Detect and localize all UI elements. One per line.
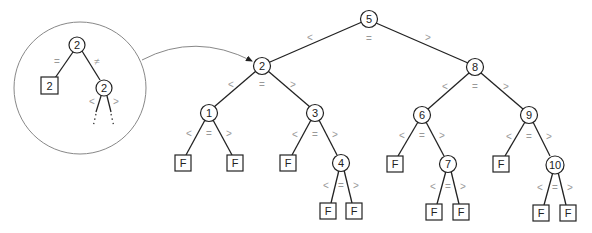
svg-text:3: 3	[312, 107, 318, 119]
inset-eq-label: =	[54, 56, 60, 67]
svg-text:>: >	[226, 128, 232, 139]
leaf-3-lt: F	[280, 155, 296, 171]
svg-text:<: <	[506, 131, 512, 142]
svg-text:>: >	[332, 129, 338, 140]
svg-text:<: <	[307, 32, 313, 43]
inset-gt-label: >	[113, 96, 119, 107]
svg-text:F: F	[538, 207, 545, 219]
inset-zoom: = ≠ < > 2 2 2	[14, 22, 146, 154]
svg-text:>: >	[425, 32, 431, 43]
svg-text:<: <	[537, 182, 543, 193]
svg-text:8: 8	[472, 61, 478, 73]
svg-text:<: <	[399, 130, 405, 141]
inset-dotted-gt	[111, 114, 114, 127]
inset-edge-gt	[107, 96, 111, 112]
svg-text:=: =	[526, 131, 532, 142]
svg-text:=: =	[445, 181, 451, 192]
svg-text:F: F	[351, 205, 358, 217]
node-7: 7	[440, 156, 457, 173]
zoom-arrow	[142, 46, 252, 61]
node-3: 3	[307, 105, 324, 122]
svg-text:F: F	[232, 157, 239, 169]
tree-edges	[186, 22, 566, 205]
svg-text:<: <	[430, 181, 436, 192]
inset-root-node: 2	[69, 37, 85, 53]
svg-text:>: >	[353, 180, 359, 191]
svg-text:<: <	[323, 180, 329, 191]
leaf-6-lt: F	[387, 156, 403, 172]
leaf-1-lt: F	[175, 155, 191, 171]
svg-text:=: =	[259, 79, 265, 90]
node-4: 4	[333, 155, 350, 172]
node-6: 6	[414, 107, 431, 124]
svg-text:>: >	[567, 182, 573, 193]
svg-text:=: =	[472, 81, 478, 92]
node-5: 5	[361, 11, 378, 28]
leaf-1-gt: F	[227, 155, 243, 171]
inset-lt-label: <	[89, 96, 95, 107]
svg-text:=: =	[312, 129, 318, 140]
svg-text:=: =	[552, 182, 558, 193]
comparator-labels: < = > < = > < = > < = > < = > < = > < = …	[186, 32, 573, 193]
svg-text:>: >	[439, 130, 445, 141]
svg-text:F: F	[458, 206, 465, 218]
leaf-7-gt: F	[453, 204, 469, 220]
svg-text:F: F	[498, 158, 505, 170]
svg-text:6: 6	[419, 109, 425, 121]
svg-text:10: 10	[549, 159, 561, 171]
svg-text:=: =	[419, 130, 425, 141]
svg-text:4: 4	[338, 157, 344, 169]
svg-text:7: 7	[445, 158, 451, 170]
inset-neq-label: ≠	[94, 56, 100, 67]
svg-text:F: F	[565, 207, 572, 219]
svg-text:>: >	[290, 79, 296, 90]
node-2: 2	[254, 58, 271, 75]
svg-text:<: <	[442, 81, 448, 92]
svg-text:>: >	[503, 81, 509, 92]
svg-text:=: =	[206, 128, 212, 139]
leaf-4-lt: F	[320, 203, 336, 219]
node-9: 9	[521, 107, 538, 124]
svg-text:F: F	[180, 157, 187, 169]
ternary-search-tree-diagram: = ≠ < > 2 2 2	[0, 0, 592, 233]
svg-text:=: =	[366, 33, 372, 44]
svg-text:F: F	[285, 157, 292, 169]
leaf-10-lt: F	[533, 205, 549, 221]
svg-text:<: <	[228, 79, 234, 90]
inset-neq-node: 2	[96, 80, 112, 96]
leaf-4-gt: F	[346, 203, 362, 219]
svg-text:<: <	[292, 129, 298, 140]
inset-edge-lt	[96, 96, 101, 112]
leaf-7-lt: F	[426, 204, 442, 220]
svg-text:F: F	[392, 158, 399, 170]
svg-text:F: F	[431, 206, 438, 218]
svg-text:1: 1	[206, 107, 212, 119]
node-10: 10	[546, 156, 564, 174]
svg-text:=: =	[338, 180, 344, 191]
svg-text:9: 9	[526, 109, 532, 121]
svg-text:2: 2	[101, 82, 107, 94]
svg-text:>: >	[546, 131, 552, 142]
svg-text:5: 5	[366, 13, 372, 25]
svg-text:F: F	[325, 205, 332, 217]
svg-text:2: 2	[259, 60, 265, 72]
inset-dotted-lt	[93, 114, 96, 127]
leaf-10-gt: F	[560, 205, 576, 221]
svg-text:2: 2	[46, 80, 52, 92]
svg-text:<: <	[186, 128, 192, 139]
svg-text:>: >	[460, 181, 466, 192]
node-1: 1	[201, 105, 218, 122]
svg-text:2: 2	[74, 39, 80, 51]
leaf-9-lt: F	[493, 156, 509, 172]
inset-eq-leaf: 2	[41, 77, 58, 94]
node-8: 8	[467, 59, 484, 76]
